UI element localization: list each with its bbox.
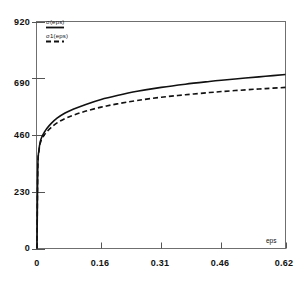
chart-figure: 920 690 460 230 0 0 0.16 0.31 0.46 0.62 … (0, 0, 305, 281)
x-tick-label-046: 0.46 (203, 258, 237, 268)
x-tick-label-031: 0.31 (143, 258, 177, 268)
x-axis-name: eps (266, 237, 276, 244)
y-tick-label-230: 230 (4, 187, 30, 197)
y-tick-label-690: 690 (4, 78, 30, 88)
y-tick-label-460: 460 (4, 130, 30, 140)
legend-label-sigma1: σ1(eps) (46, 33, 68, 39)
x-tick-label-016: 0.16 (83, 258, 117, 268)
plot-canvas (0, 0, 305, 281)
series-sigma1-curve (37, 87, 286, 248)
plot-frame (37, 22, 286, 249)
x-tick-label-062: 0.62 (267, 258, 301, 268)
y-tick-label-920: 920 (4, 17, 30, 27)
y-tick-label-0: 0 (4, 243, 30, 253)
legend-label-sigma: σ(eps) (46, 19, 65, 25)
series-sigma-curve (37, 75, 286, 249)
x-axis-ticks (38, 243, 287, 249)
x-tick-label-0: 0 (20, 258, 54, 268)
